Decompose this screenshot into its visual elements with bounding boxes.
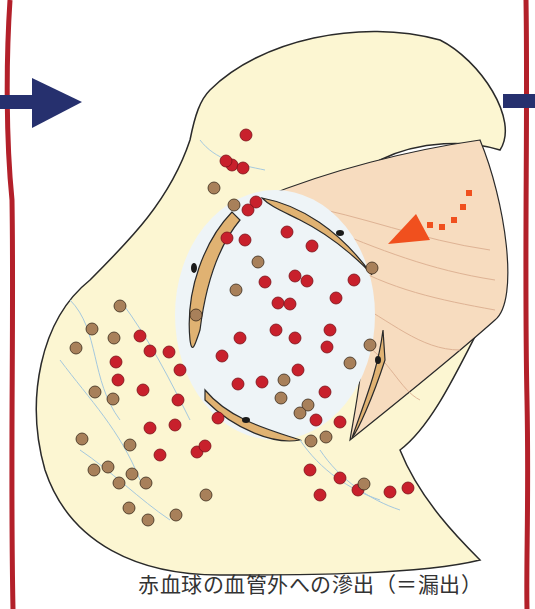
prev-arrow-icon[interactable] (0, 78, 82, 128)
illustration-stage (0, 0, 535, 609)
right-frame-line (526, 0, 528, 609)
vessel-lumen (175, 190, 375, 440)
next-arrow-icon[interactable] (503, 94, 535, 108)
left-frame-line (7, 0, 13, 609)
figure-caption: 赤血球の血管外への滲出（＝漏出） (138, 568, 518, 598)
